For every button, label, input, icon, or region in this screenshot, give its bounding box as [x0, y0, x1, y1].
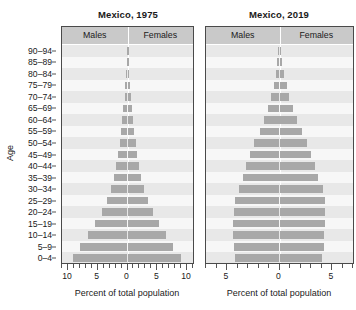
- y-axis-label-55-59: 55–59: [28, 126, 52, 136]
- bar-females-15-19: [280, 220, 325, 228]
- x-axis-minor-tick: [310, 264, 311, 268]
- y-axis-label-0-4: 0–4: [38, 253, 52, 263]
- y-axis-label-70-74: 70–74: [28, 92, 52, 102]
- x-axis-minor-tick: [258, 264, 259, 268]
- x-axis-minor-tick: [91, 264, 92, 268]
- panel-mexico-1975: Males Females: [61, 26, 194, 264]
- y-axis-label-15-19: 15–19: [28, 219, 52, 229]
- y-axis-label-25-29: 25–29: [28, 196, 52, 206]
- bar-females-35-39: [128, 174, 141, 182]
- x-axis-major-tick: [186, 264, 187, 270]
- y-axis-tick: [52, 189, 56, 190]
- legend-band-left: Males Females: [62, 27, 193, 45]
- chart-title-left: Mexico, 1975: [62, 9, 194, 20]
- bar-females-5-9: [128, 243, 174, 251]
- legend-band-right: Males Females: [206, 27, 353, 45]
- legend-males-right: Males: [206, 30, 280, 40]
- y-axis-tick: [52, 177, 56, 178]
- bar-females-25-29: [280, 197, 325, 205]
- bar-males-45-49: [118, 151, 128, 159]
- bar-females-65-69: [128, 105, 132, 113]
- bar-males-20-24: [102, 208, 128, 216]
- y-axis-label-35-39: 35–39: [28, 173, 52, 183]
- x-axis-tick-label: 0: [117, 271, 137, 281]
- bar-males-35-39: [243, 174, 280, 182]
- bar-females-90-94: [128, 47, 129, 55]
- y-axis-label-90-94: 90–94: [28, 46, 52, 56]
- x-axis-minor-tick: [132, 264, 133, 268]
- bar-females-50-54: [280, 139, 307, 147]
- bar-females-85-89: [128, 58, 129, 66]
- x-axis-minor-tick: [268, 264, 269, 268]
- x-axis-minor-tick: [61, 264, 62, 268]
- legend-females-left: Females: [128, 30, 194, 40]
- x-axis-minor-tick: [144, 264, 145, 268]
- bar-females-30-34: [280, 185, 323, 193]
- y-axis-tick: [52, 166, 56, 167]
- bar-males-70-74: [271, 93, 279, 101]
- y-axis-label-40-44: 40–44: [28, 161, 52, 171]
- bar-females-30-34: [128, 185, 144, 193]
- bar-females-40-44: [280, 162, 316, 170]
- y-axis-tick: [52, 200, 56, 201]
- x-axis-major-tick: [156, 264, 157, 270]
- bar-females-70-74: [280, 93, 290, 101]
- bar-males-55-59: [260, 128, 280, 136]
- bar-females-60-64: [280, 116, 298, 124]
- y-axis-label-65-69: 65–69: [28, 103, 52, 113]
- bar-males-25-29: [235, 197, 279, 205]
- y-axis-tick: [52, 73, 56, 74]
- x-axis-minor-tick: [174, 264, 175, 268]
- x-axis-title-left: Percent of total population: [52, 288, 202, 298]
- y-axis-tick: [52, 62, 56, 63]
- y-axis-tick: [52, 142, 56, 143]
- bar-males-5-9: [234, 243, 279, 251]
- bar-males-30-34: [239, 185, 280, 193]
- y-axis-label-50-54: 50–54: [28, 138, 52, 148]
- x-axis-minor-tick: [138, 264, 139, 268]
- y-axis-tick: [52, 96, 56, 97]
- y-axis-tick: [52, 119, 56, 120]
- bar-females-0-4: [280, 254, 322, 262]
- bar-females-85-89: [280, 58, 283, 66]
- x-axis-minor-tick: [342, 264, 343, 268]
- x-axis-left: 1050510: [61, 264, 194, 272]
- legend-divider-right: [280, 27, 281, 45]
- legend-divider-left: [128, 27, 129, 45]
- legend-males-left: Males: [62, 30, 128, 40]
- y-axis-label-75-79: 75–79: [28, 80, 52, 90]
- bar-males-0-4: [235, 254, 279, 262]
- bar-females-20-24: [280, 208, 325, 216]
- y-axis-tick: [52, 246, 56, 247]
- y-axis-label-60-64: 60–64: [28, 115, 52, 125]
- x-axis-minor-tick: [85, 264, 86, 268]
- bar-females-45-49: [128, 151, 138, 159]
- x-axis-minor-tick: [73, 264, 74, 268]
- bar-males-20-24: [234, 208, 279, 216]
- x-axis-minor-tick: [150, 264, 151, 268]
- x-axis-minor-tick: [237, 264, 238, 268]
- bar-males-10-14: [233, 231, 279, 239]
- x-axis-tick-label: 5: [146, 271, 166, 281]
- x-axis-minor-tick: [115, 264, 116, 268]
- bar-females-75-79: [128, 82, 130, 90]
- chart-title-right: Mexico, 2019: [205, 9, 353, 20]
- population-pyramid-figure: Mexico, 1975 Mexico, 2019 Age 90–9485–89…: [0, 0, 356, 310]
- bar-males-60-64: [264, 116, 280, 124]
- bar-females-90-94: [280, 47, 281, 55]
- x-axis-minor-tick: [121, 264, 122, 268]
- bar-females-80-84: [128, 70, 129, 78]
- y-axis-label-85-89: 85–89: [28, 57, 52, 67]
- x-axis-minor-tick: [103, 264, 104, 268]
- bar-females-10-14: [280, 231, 324, 239]
- bar-males-50-54: [254, 139, 279, 147]
- plot-area-right: [206, 45, 353, 263]
- x-axis-major-tick: [331, 264, 332, 270]
- bar-males-5-9: [80, 243, 127, 251]
- x-axis-minor-tick: [216, 264, 217, 268]
- x-axis-minor-tick: [321, 264, 322, 268]
- bar-males-15-19: [233, 220, 279, 228]
- x-axis-major-tick: [279, 264, 280, 270]
- y-axis-label-80-84: 80–84: [28, 69, 52, 79]
- bar-females-45-49: [280, 151, 312, 159]
